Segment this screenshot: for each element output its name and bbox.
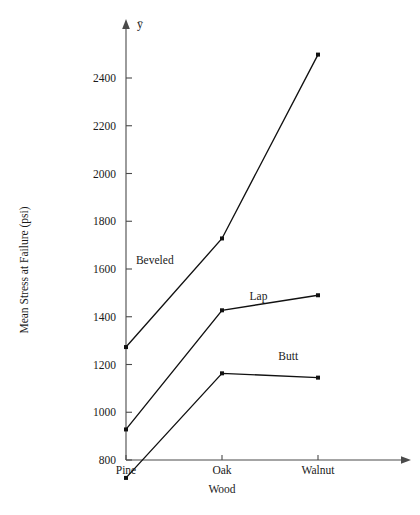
data-point-butt-walnut — [316, 376, 320, 380]
x-axis-arrow-icon — [401, 456, 411, 464]
data-point-butt-pine — [124, 476, 128, 480]
data-point-beveled-pine — [124, 345, 128, 349]
data-point-beveled-walnut — [316, 53, 320, 57]
chart-container: ȳ 80010001200140016001800200022002400 P… — [0, 0, 420, 515]
y-axis-arrow-icon — [122, 19, 130, 29]
series-label-butt: Butt — [278, 350, 299, 362]
y-axis-title: Mean Stress at Failure (psi) — [18, 206, 31, 333]
y-tick-label: 1600 — [93, 263, 116, 275]
y-tick-label: 1800 — [93, 215, 116, 227]
y-axis: ȳ — [122, 17, 143, 460]
series-group — [124, 53, 320, 480]
y-tick-label: 1400 — [93, 311, 116, 323]
x-axis-title: Wood — [208, 483, 235, 495]
y-tick-label: 2200 — [93, 120, 116, 132]
series-label-lap: Lap — [250, 290, 268, 303]
data-point-lap-walnut — [316, 293, 320, 297]
y-tick-label: 2400 — [93, 72, 116, 84]
data-point-butt-oak — [220, 371, 224, 375]
series-line-beveled — [126, 55, 318, 347]
y-axis-variable-label: ȳ — [137, 17, 143, 31]
x-tick-label-oak: Oak — [212, 464, 231, 476]
y-tick-label: 1200 — [93, 359, 116, 371]
x-axis — [126, 456, 411, 464]
data-point-beveled-oak — [220, 236, 224, 240]
x-tick-label-walnut: Walnut — [302, 464, 336, 476]
series-line-butt — [126, 373, 318, 478]
line-chart: ȳ 80010001200140016001800200022002400 P… — [0, 0, 420, 515]
series-label-beveled: Beveled — [136, 254, 174, 266]
y-tick-label: 2000 — [93, 168, 116, 180]
y-tick-label: 1000 — [93, 406, 116, 418]
x-tick-group: PineOakWalnut — [116, 455, 335, 476]
data-point-lap-oak — [220, 308, 224, 312]
data-point-lap-pine — [124, 427, 128, 431]
y-tick-label: 800 — [99, 454, 117, 466]
